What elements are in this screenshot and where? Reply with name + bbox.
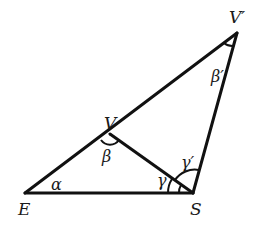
label-V-prime: V′ <box>229 7 245 27</box>
label-S: S <box>190 199 202 219</box>
angle-label-alpha: α <box>51 175 62 194</box>
triangle-diagram: E S V′ V α β β′ γ γ′ <box>0 0 255 232</box>
angle-label-gamma: γ <box>157 171 167 190</box>
angle-label-gamma-prime: γ′ <box>181 153 195 172</box>
label-E: E <box>17 199 31 219</box>
angle-label-beta: β <box>101 147 111 166</box>
angle-arc-gamma <box>168 179 172 193</box>
angle-label-beta-prime: β′ <box>210 67 224 86</box>
edge-S-Vprime <box>193 33 237 193</box>
angle-arc-beta <box>101 140 119 145</box>
edge-E-Vprime <box>25 33 237 193</box>
angle-arc-beta-prime <box>224 43 233 46</box>
label-V: V <box>104 113 118 133</box>
